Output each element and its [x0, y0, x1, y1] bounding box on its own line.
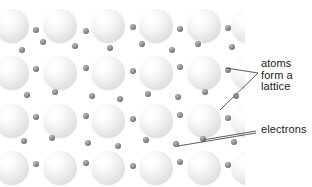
atom-sphere [139, 151, 173, 185]
electron-dot [177, 159, 183, 165]
electron-dot [175, 94, 181, 100]
atom-sphere [91, 56, 125, 90]
atom-sphere [187, 56, 221, 90]
atom-sphere [139, 9, 173, 43]
electron-dot [225, 162, 231, 168]
atom-sphere [0, 9, 29, 43]
atom-sphere [139, 104, 173, 138]
electron-dot [143, 137, 149, 143]
electron-dot [200, 136, 206, 142]
atom-sphere [43, 9, 77, 43]
atom-sphere [231, 56, 245, 90]
electron-dot [233, 93, 239, 99]
electron-dot [33, 66, 39, 72]
electron-dot [177, 112, 183, 118]
atom-sphere [187, 151, 221, 185]
electron-dot [173, 141, 179, 147]
electron-dot [145, 91, 151, 97]
electrons-label: electrons [261, 124, 307, 136]
electron-dot [33, 114, 39, 120]
electron-dot [139, 41, 145, 47]
electron-dot [231, 139, 237, 145]
electron-dot [52, 89, 58, 95]
electron-dot [40, 39, 46, 45]
metallic-lattice-figure: atoms form a lattice electrons [0, 0, 312, 187]
atom-sphere [0, 151, 29, 185]
atom-sphere [43, 56, 77, 90]
atom-sphere [231, 151, 245, 185]
electron-dot [83, 28, 89, 34]
atom-sphere [231, 104, 245, 138]
atom-sphere [0, 56, 29, 90]
atom-sphere [91, 9, 125, 43]
electron-dot [229, 44, 235, 50]
electron-dot [72, 43, 78, 49]
atom-sphere [231, 9, 245, 43]
electron-dot [83, 65, 89, 71]
atoms-form-a-lattice-label: atoms form a lattice [261, 58, 293, 93]
electron-dot [225, 67, 231, 73]
electron-dot [89, 93, 95, 99]
atom-sphere [187, 104, 221, 138]
electron-dot [130, 116, 136, 122]
atom-sphere [187, 9, 221, 43]
electron-dot [177, 26, 183, 32]
electron-dot [130, 68, 136, 74]
atom-sphere [91, 151, 125, 185]
electron-dot [169, 47, 175, 53]
electron-dot [107, 45, 113, 51]
atom-sphere [0, 104, 29, 138]
electron-dot [115, 143, 121, 149]
electron-dot [83, 160, 89, 166]
electron-dot [85, 140, 91, 146]
electron-dot [24, 92, 30, 98]
lattice-diagram [0, 0, 245, 187]
electron-dot [225, 25, 231, 31]
electron-dot [177, 64, 183, 70]
electron-dot [49, 135, 55, 141]
electron-dot [225, 115, 231, 121]
electron-dot [130, 24, 136, 30]
electron-dot [202, 89, 208, 95]
atom-sphere [139, 56, 173, 90]
electron-dot [195, 41, 201, 47]
electron-dot [130, 163, 136, 169]
electron-dot [33, 27, 39, 33]
electron-dot [19, 47, 25, 53]
atom-sphere [43, 151, 77, 185]
atom-sphere [43, 104, 77, 138]
electron-dot [117, 96, 123, 102]
electron-dot [33, 161, 39, 167]
atom-sphere [91, 104, 125, 138]
electron-dot [21, 138, 27, 144]
electron-dot [83, 113, 89, 119]
